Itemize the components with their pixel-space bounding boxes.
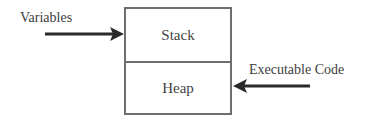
variables-arrow-icon <box>45 27 124 41</box>
arrows-layer <box>0 0 375 122</box>
executable-code-arrow-icon <box>233 79 310 93</box>
